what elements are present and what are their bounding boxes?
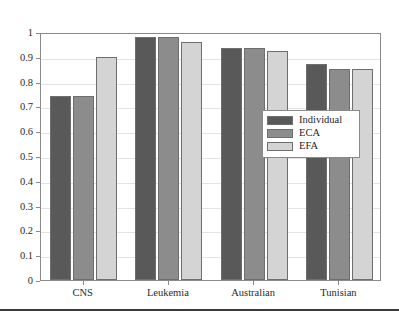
bar-efa-tunisian [352, 69, 373, 280]
bar-individual-leukemia [135, 37, 156, 280]
x-tick-mark [168, 281, 169, 285]
y-tick-label: 0.8 [20, 77, 33, 88]
legend-swatch-icon [267, 129, 293, 138]
x-axis: CNSLeukemiaAustralianTunisian [40, 281, 381, 307]
y-axis: 00.10.20.30.40.50.60.70.80.91 [0, 33, 40, 281]
chart-legend: IndividualECAEFA [262, 110, 360, 158]
bottom-rule [0, 309, 399, 311]
legend-swatch-icon [267, 142, 293, 151]
bar-individual-australian [221, 48, 242, 280]
y-tick-label: 0.9 [20, 53, 33, 64]
x-tick-label: Australian [231, 287, 275, 298]
x-tick-label: Tunisian [320, 287, 356, 298]
y-tick-label: 0.4 [20, 177, 33, 188]
legend-item-efa: EFA [267, 140, 355, 153]
y-tick-label: 0.5 [20, 152, 33, 163]
legend-label: EFA [299, 141, 318, 152]
bar-eca-australian [244, 48, 265, 280]
y-tick-label: 0.7 [20, 102, 33, 113]
bar-efa-leukemia [181, 42, 202, 280]
bar-individual-cns [50, 96, 71, 280]
bar-individual-tunisian [306, 64, 327, 280]
y-tick-label: 0.2 [20, 226, 33, 237]
legend-item-eca: ECA [267, 127, 355, 140]
figure-container: 00.10.20.30.40.50.60.70.80.91 CNSLeukemi… [0, 0, 399, 316]
y-tick-label: 1 [28, 28, 33, 39]
bar-eca-tunisian [329, 69, 350, 280]
legend-label: Individual [299, 115, 342, 126]
x-tick-mark [253, 281, 254, 285]
x-tick-mark [83, 281, 84, 285]
x-tick-mark [338, 281, 339, 285]
bar-eca-cns [73, 96, 94, 280]
legend-item-individual: Individual [267, 114, 355, 127]
x-tick-label: Leukemia [147, 287, 189, 298]
bar-efa-cns [96, 57, 117, 280]
x-tick-label: CNS [72, 287, 92, 298]
bar-eca-leukemia [158, 37, 179, 280]
legend-label: ECA [299, 128, 320, 139]
y-tick-label: 0 [28, 276, 33, 287]
y-tick-label: 0.6 [20, 127, 33, 138]
bar-efa-australian [267, 51, 288, 280]
y-tick-label: 0.1 [20, 251, 33, 262]
legend-swatch-icon [267, 116, 293, 125]
y-tick-label: 0.3 [20, 201, 33, 212]
